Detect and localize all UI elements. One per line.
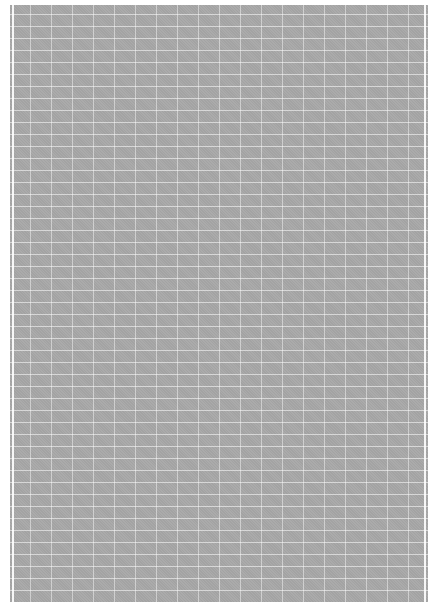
sheet-left-margin-line <box>12 5 14 602</box>
sheet-right-margin-line <box>424 5 426 602</box>
grid-paper-sheet <box>10 5 428 602</box>
